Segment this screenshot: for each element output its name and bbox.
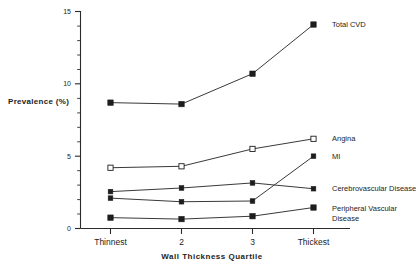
series-label-peripheral-vascular-disease-line2: Disease xyxy=(332,214,359,223)
data-point xyxy=(250,214,255,219)
data-point xyxy=(108,165,113,170)
series-label-mi: MI xyxy=(332,152,340,161)
x-axis xyxy=(81,229,351,235)
xtick-label-thinnest: Thinnest xyxy=(94,237,127,247)
data-point xyxy=(179,216,184,221)
data-point xyxy=(179,186,184,191)
ytick-label-15: 15 xyxy=(63,8,71,15)
data-point xyxy=(311,154,316,159)
series-cerebrovascular-disease xyxy=(108,181,316,194)
series-total-cvd xyxy=(108,22,316,107)
xtick-label-3: 3 xyxy=(250,237,255,247)
series-angina xyxy=(108,136,316,170)
data-point xyxy=(311,22,316,27)
data-point xyxy=(108,189,113,194)
series-label-total-cvd: Total CVD xyxy=(332,20,366,29)
data-point xyxy=(179,101,184,106)
x-axis-title: Wall Thickness Quartile xyxy=(161,252,263,261)
data-point xyxy=(108,215,113,220)
data-point xyxy=(250,181,255,186)
data-point xyxy=(108,100,113,105)
data-point xyxy=(250,199,255,204)
data-point xyxy=(179,199,184,204)
data-point xyxy=(311,136,316,141)
line-chart: 0 5 10 15 Thinnest 2 3 Thickest Wall Thi… xyxy=(0,0,416,265)
y-axis-title: Prevalence (%) xyxy=(8,97,69,106)
xtick-label-2: 2 xyxy=(179,237,184,247)
xtick-label-thickest: Thickest xyxy=(298,237,330,247)
series-label-angina: Angina xyxy=(332,134,356,143)
data-point xyxy=(179,164,184,169)
series-label-peripheral-vascular-disease-line1: Peripheral Vascular xyxy=(332,204,397,213)
data-point xyxy=(250,71,255,76)
series-peripheral-vascular-disease xyxy=(108,205,316,222)
data-point xyxy=(250,146,255,151)
y-axis xyxy=(75,11,81,229)
data-point xyxy=(311,186,316,191)
series-mi xyxy=(108,154,316,204)
data-point xyxy=(311,205,316,210)
data-point xyxy=(108,196,113,201)
chart-figure: 0 5 10 15 Thinnest 2 3 Thickest Wall Thi… xyxy=(0,0,416,265)
ytick-label-5: 5 xyxy=(67,153,71,160)
series-label-cerebrovascular-disease: Cerebrovascular Disease xyxy=(332,184,416,193)
ytick-label-0: 0 xyxy=(67,225,71,232)
ytick-label-10: 10 xyxy=(63,80,71,87)
